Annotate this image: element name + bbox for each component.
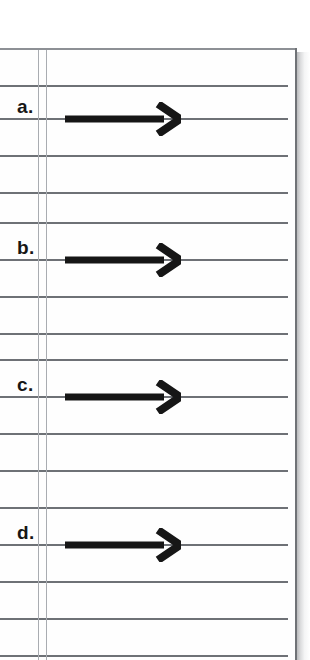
answer-arrow [65,102,181,136]
ruled-line [0,85,288,87]
ruled-line [0,433,288,435]
answer-arrow [65,528,181,562]
paper-sheet [0,48,297,660]
ruled-line [0,192,288,194]
worksheet-page: a.b.c.d. [0,0,310,660]
item-label-a: a. [17,97,34,116]
answer-arrow [65,380,181,414]
ruled-line [0,222,288,224]
item-label-c: c. [17,375,34,394]
answer-arrow [65,243,181,277]
ruled-line [0,655,288,657]
margin-rule [46,48,47,660]
item-label-b: b. [17,238,35,257]
ruled-line [0,333,288,335]
ruled-line [0,507,288,509]
ruled-line [0,618,288,620]
paper-drop-shadow [297,52,310,660]
ruled-line [0,581,288,583]
ruled-line [0,359,288,361]
margin-rule [38,48,39,660]
ruled-line [0,155,288,157]
item-label-d: d. [17,523,35,542]
paper-top-border [0,48,297,50]
ruled-line [0,296,288,298]
ruled-line [0,470,288,472]
